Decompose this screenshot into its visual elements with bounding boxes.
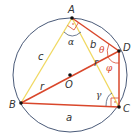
point-O bbox=[68, 73, 72, 77]
label-phi: φ bbox=[106, 63, 113, 73]
angle-alpha-arc bbox=[64, 32, 81, 36]
label-O: O bbox=[65, 79, 73, 90]
label-D: D bbox=[123, 42, 131, 53]
label-C: C bbox=[123, 103, 130, 114]
label-side-a: a bbox=[66, 112, 72, 123]
label-gamma: γ bbox=[96, 90, 102, 100]
label-A: A bbox=[67, 4, 75, 15]
label-side-c: c bbox=[38, 51, 44, 62]
diameter-BD bbox=[21, 51, 119, 103]
point-D bbox=[117, 49, 121, 53]
label-B: B bbox=[9, 99, 16, 110]
right-angle-dot-A bbox=[72, 23, 74, 25]
point-C bbox=[117, 105, 121, 109]
angle-theta-arc bbox=[107, 44, 109, 57]
point-A bbox=[70, 16, 74, 20]
right-angle-dot-C bbox=[114, 101, 116, 103]
geometry-diagram: A B C D O a b c r r α γ θ φ bbox=[0, 0, 137, 140]
point-B bbox=[19, 101, 23, 105]
label-side-b: b bbox=[90, 39, 96, 50]
label-alpha: α bbox=[68, 37, 74, 47]
label-theta: θ bbox=[99, 45, 105, 55]
side-a bbox=[21, 103, 119, 107]
